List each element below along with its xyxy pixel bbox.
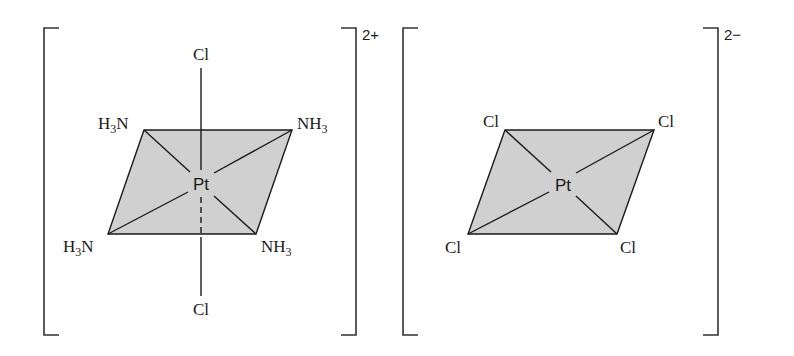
ligand-h3n-top-left: H3N <box>98 114 129 136</box>
anion-right-bracket <box>703 28 718 335</box>
anion-ligand-cl-bottom-right: Cl <box>620 238 636 257</box>
ligand-nh3-top-right: NH3 <box>297 114 328 136</box>
anion-center-pt: Pt <box>555 176 571 195</box>
cation-left-bracket <box>44 28 59 335</box>
cation-center-pt: Pt <box>193 175 209 194</box>
anion-left-bracket <box>403 28 418 335</box>
cation-axial-top-cl: Cl <box>193 45 209 64</box>
ligand-h3n-bottom-left: H3N <box>63 237 94 259</box>
complex-ions-diagram: 2+ Pt Cl Cl H3N NH3 H3N NH3 2− Pt Cl Cl <box>0 0 794 356</box>
anion-complex: 2− Pt Cl Cl Cl Cl <box>403 26 741 335</box>
cation-right-bracket <box>341 28 356 335</box>
ligand-nh3-bottom-right: NH3 <box>261 237 292 259</box>
anion-ligand-cl-bottom-left: Cl <box>445 238 461 257</box>
anion-ligand-cl-top-right: Cl <box>658 112 674 131</box>
anion-ligand-cl-top-left: Cl <box>483 112 499 131</box>
cation-charge: 2+ <box>362 26 379 43</box>
cation-axial-bottom-cl: Cl <box>193 300 209 319</box>
cation-complex: 2+ Pt Cl Cl H3N NH3 H3N NH3 <box>44 26 379 335</box>
anion-charge: 2− <box>724 26 741 43</box>
